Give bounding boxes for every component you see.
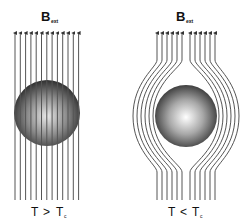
left-panel: B ext T > T c bbox=[14, 9, 80, 219]
right-panel: B ext T < T c bbox=[133, 9, 239, 219]
right-field-label: B bbox=[176, 9, 185, 24]
svg-text:T: T bbox=[192, 205, 200, 219]
svg-text:T: T bbox=[31, 205, 39, 219]
meissner-effect-diagram: B ext T > T c B ext bbox=[0, 0, 241, 224]
svg-text:c: c bbox=[200, 213, 203, 219]
svg-text:>: > bbox=[43, 205, 50, 219]
right-condition-label: T < T c bbox=[168, 205, 203, 219]
left-field-label: B bbox=[41, 9, 50, 24]
svg-text:c: c bbox=[64, 213, 67, 219]
svg-text:T: T bbox=[56, 205, 64, 219]
right-field-subscript: ext bbox=[186, 18, 194, 24]
left-condition-label: T > T c bbox=[31, 205, 67, 219]
left-field-subscript: ext bbox=[51, 18, 59, 24]
svg-text:<: < bbox=[180, 205, 187, 219]
superconducting-sphere bbox=[155, 85, 217, 147]
svg-text:T: T bbox=[168, 205, 176, 219]
